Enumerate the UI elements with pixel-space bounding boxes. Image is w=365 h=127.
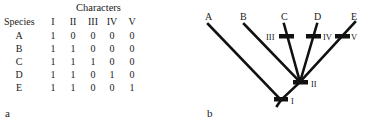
char-header-IV: IV <box>104 16 120 27</box>
characters-title: Characters <box>76 2 121 13</box>
bar-II <box>293 80 308 85</box>
value-cell: 0 <box>124 30 140 41</box>
taxon-E: E <box>351 11 357 22</box>
species-label: B <box>14 43 24 54</box>
panel-b-label: b <box>207 107 213 119</box>
value-cell: 0 <box>85 69 101 80</box>
species-header: Species <box>4 16 35 27</box>
value-cell: 0 <box>124 56 140 67</box>
bar-I <box>274 97 288 102</box>
panel-a-label: a <box>5 107 10 119</box>
value-cell: 0 <box>104 82 120 93</box>
value-cell: 1 <box>45 82 61 93</box>
value-cell: 1 <box>45 30 61 41</box>
value-cell: 0 <box>104 56 120 67</box>
table-row: A 1 0 0 0 0 <box>0 30 180 43</box>
table-row: B 1 1 0 0 0 <box>0 43 180 56</box>
value-cell: 0 <box>85 82 101 93</box>
species-label: D <box>14 69 24 80</box>
value-cell: 0 <box>104 30 120 41</box>
char-label-V: V <box>351 32 358 42</box>
header-row: Species I II III IV V <box>0 16 180 29</box>
value-cell: 1 <box>104 69 120 80</box>
char-header-V: V <box>124 16 140 27</box>
value-cell: 1 <box>85 56 101 67</box>
table-row: E 1 1 0 0 1 <box>0 82 180 95</box>
taxon-D: D <box>314 11 321 22</box>
value-cell: 0 <box>85 30 101 41</box>
value-cell: 0 <box>85 43 101 54</box>
table-row: D 1 1 0 1 0 <box>0 69 180 82</box>
value-cell: 0 <box>65 30 81 41</box>
value-cell: 0 <box>104 43 120 54</box>
value-cell: 1 <box>65 56 81 67</box>
species-label: A <box>14 30 24 41</box>
char-header-II: II <box>65 16 81 27</box>
value-cell: 1 <box>45 43 61 54</box>
species-label: E <box>14 82 24 93</box>
taxon-labels: A B C D E <box>205 11 357 22</box>
bar-IV <box>306 34 321 39</box>
value-cell: 0 <box>124 43 140 54</box>
value-cell: 1 <box>124 82 140 93</box>
species-label: C <box>14 56 24 67</box>
taxon-B: B <box>240 11 247 22</box>
char-label-III: III <box>266 32 275 42</box>
value-cell: 0 <box>124 69 140 80</box>
value-cell: 1 <box>65 82 81 93</box>
char-label-I: I <box>291 96 294 106</box>
char-header-I: I <box>45 16 61 27</box>
value-cell: 1 <box>65 43 81 54</box>
bar-III <box>279 34 294 39</box>
character-matrix-panel: Characters Species I II III IV V A 1 0 0… <box>0 0 180 127</box>
char-label-II: II <box>311 79 317 89</box>
value-cell: 1 <box>65 69 81 80</box>
char-label-IV: IV <box>323 32 333 42</box>
taxon-A: A <box>205 11 213 22</box>
value-cell: 1 <box>45 56 61 67</box>
taxon-C: C <box>281 11 288 22</box>
value-cell: 1 <box>45 69 61 80</box>
char-header-III: III <box>85 16 101 27</box>
bar-V <box>335 34 350 39</box>
table-row: C 1 1 1 0 0 <box>0 56 180 69</box>
